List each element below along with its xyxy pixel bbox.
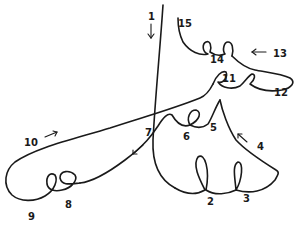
- arrow-13-icon: [252, 49, 266, 55]
- label-1: 1: [148, 11, 155, 22]
- label-15: 15: [178, 18, 192, 29]
- arrow-7-icon: [133, 145, 143, 154]
- label-14: 14: [210, 54, 224, 65]
- label-12: 12: [274, 87, 288, 98]
- arrow-1-icon: [148, 24, 154, 38]
- label-8: 8: [65, 199, 72, 210]
- loops-5-6-stroke: [80, 100, 220, 183]
- label-4: 4: [257, 141, 264, 152]
- vertical-stroke: [153, 5, 175, 188]
- label-5: 5: [210, 122, 217, 133]
- label-9: 9: [28, 211, 35, 222]
- label-6: 6: [183, 131, 190, 142]
- label-10: 10: [24, 137, 38, 148]
- arrow-4-icon: [238, 134, 247, 142]
- label-2: 2: [207, 196, 214, 207]
- label-3: 3: [243, 193, 250, 204]
- arrow-10-icon: [45, 131, 57, 137]
- label-13: 13: [273, 48, 287, 59]
- label-7: 7: [145, 127, 152, 138]
- stroke-path-diagram: 1 2 3 4 5 6 7 8 9 10 11 12 13 14 15: [0, 0, 301, 226]
- label-11: 11: [222, 73, 236, 84]
